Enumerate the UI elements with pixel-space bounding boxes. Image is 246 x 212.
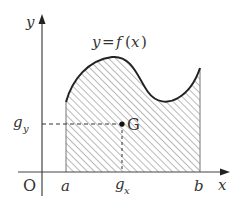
y-axis-label: y [25,13,35,31]
origin-label: O [23,176,36,195]
svg-text:g: g [13,113,23,131]
svg-text:y: y [91,33,101,51]
x-axis-label: x [218,176,227,194]
svg-text:y: y [22,123,29,134]
svg-text:f: f [115,33,124,51]
y-axis [39,14,46,196]
tick-label-b: b [194,177,204,195]
tick-label-a: a [61,177,70,195]
x-axis-arrow-icon [220,169,230,176]
tick-label-gx: g x [115,175,130,196]
centroid-diagram: y x O a b g x g y G y = f ( x ) [0,0,246,212]
svg-text:x: x [124,185,130,196]
svg-text:): ) [141,33,147,51]
centroid-point [119,121,124,126]
curve-equation-label: y = f ( x ) [91,33,147,51]
centroid-label: G [127,115,140,134]
tick-label-gy: g y [13,113,29,134]
svg-text:(: ( [125,33,131,51]
y-axis-arrow-icon [39,14,46,24]
hatched-region [60,50,205,175]
svg-text:x: x [131,33,140,51]
svg-text:=: = [102,33,115,51]
